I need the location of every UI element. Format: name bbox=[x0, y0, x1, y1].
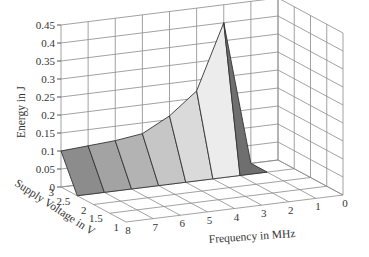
x-tick-label: 2 bbox=[288, 204, 294, 216]
x-tick-label: 0 bbox=[342, 197, 348, 209]
floor-gridline bbox=[110, 186, 327, 213]
z-tick-label: 0.2 bbox=[41, 109, 55, 121]
x-tick-label: 6 bbox=[180, 217, 186, 229]
x-axis-label-text: Frequency in MHz bbox=[208, 227, 296, 246]
x-tick-label: 1 bbox=[315, 200, 321, 212]
z-axis-label: Energy in J bbox=[15, 85, 28, 138]
z-tick-label: 0.1 bbox=[41, 145, 55, 157]
z-axis-label-text: Energy in J bbox=[15, 85, 28, 138]
y-tick-label: 1 bbox=[114, 221, 120, 233]
z-tick-label: 0.3 bbox=[41, 73, 55, 85]
x-tick-label: 7 bbox=[152, 221, 158, 233]
z-tick-label: 0.05 bbox=[36, 163, 56, 175]
x-axis-label: Frequency in MHz bbox=[208, 227, 296, 246]
x-tick-label: 3 bbox=[261, 207, 267, 219]
z-tick-label: 0.15 bbox=[36, 127, 56, 139]
x-tick-label: 5 bbox=[207, 214, 213, 226]
z-tick-label: 0.35 bbox=[36, 55, 56, 67]
x-tick-label: 4 bbox=[234, 211, 240, 223]
z-tick-label: 0.4 bbox=[41, 37, 55, 49]
z-tick-label: 0.25 bbox=[36, 91, 56, 103]
x-tick-label: 8 bbox=[125, 224, 131, 236]
y-tick-label: 2 bbox=[81, 204, 87, 216]
energy-surface-chart: 00.050.10.150.20.250.30.350.40.4532.521.… bbox=[0, 0, 369, 257]
energy-surface bbox=[61, 23, 267, 196]
z-tick-label: 0.45 bbox=[36, 19, 56, 31]
